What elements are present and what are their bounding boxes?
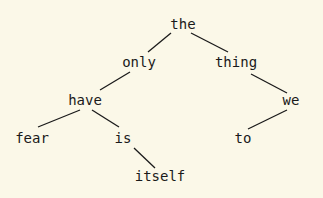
node-we: we (283, 92, 300, 108)
node-is: is (115, 130, 132, 146)
node-fear: fear (15, 130, 49, 146)
node-to: to (235, 130, 252, 146)
edge-have-is (92, 110, 119, 127)
edge-only-have (100, 72, 130, 90)
node-only: only (122, 54, 156, 70)
edge-the-thing (191, 33, 228, 52)
edge-the-only (148, 33, 171, 52)
nodes: the only thing have we fear is to itself (15, 16, 299, 184)
edge-thing-we (251, 74, 287, 93)
tree-diagram: the only thing have we fear is to itself (0, 0, 323, 198)
edge-is-itself (134, 148, 155, 168)
node-the: the (170, 16, 195, 32)
node-have: have (68, 92, 102, 108)
node-thing: thing (215, 54, 257, 70)
edge-we-to (248, 110, 287, 129)
edge-have-fear (38, 110, 80, 127)
node-itself: itself (135, 168, 186, 184)
